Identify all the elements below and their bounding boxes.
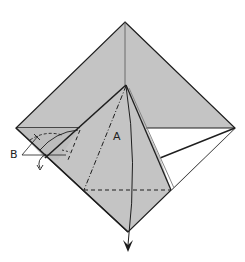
- diagram-canvas: [0, 0, 245, 262]
- label-b: B: [10, 149, 18, 160]
- label-a: A: [113, 131, 121, 142]
